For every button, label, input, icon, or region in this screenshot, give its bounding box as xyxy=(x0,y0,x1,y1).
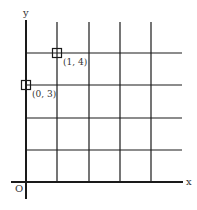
point-marker-1-4: (1, 4) xyxy=(53,49,88,68)
origin-label: O xyxy=(15,183,23,194)
point-label-1-4: (1, 4) xyxy=(63,57,87,67)
coordinate-grid-diagram: y x O (1, 4) (0, 3) xyxy=(0,0,197,210)
point-label-0-3: (0, 3) xyxy=(32,89,56,99)
vertical-grid-lines xyxy=(57,22,151,182)
horizontal-grid-lines xyxy=(26,53,182,150)
y-axis-label: y xyxy=(22,7,29,18)
x-axis-label: x xyxy=(186,176,192,187)
